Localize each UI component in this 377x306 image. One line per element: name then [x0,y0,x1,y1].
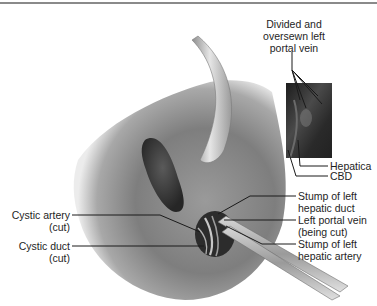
label-line: Cystic duct [0,240,70,252]
label-line: Cystic artery [0,209,70,221]
label-line: portal vein [252,42,336,54]
label-line: hepatic artery [298,250,362,262]
label-line: Divided and [252,18,336,30]
label-line: (being cut) [298,226,367,238]
label-line: Stump of left [298,190,357,202]
label-cystic-duct: Cystic duct (cut) [0,240,70,264]
label-stump-hepatic-artery: Stump of left hepatic artery [298,238,362,262]
label-line: oversewn left [252,30,336,42]
label-divided-portal-vein: Divided and oversewn left portal vein [252,18,336,54]
label-line: (cut) [0,252,70,264]
label-left-portal-vein: Left portal vein (being cut) [298,214,367,238]
label-stump-hepatic-duct: Stump of left hepatic duct [298,190,357,214]
label-cbd: CBD [330,170,352,182]
label-line: hepatic duct [298,202,357,214]
label-line: Stump of left [298,238,362,250]
label-cystic-artery: Cystic artery (cut) [0,209,70,233]
label-line: Left portal vein [298,214,367,226]
label-line: (cut) [0,221,70,233]
